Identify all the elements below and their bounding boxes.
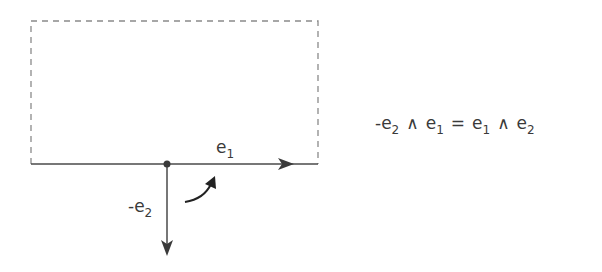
rhs-term-2-subscript: 2 [527, 123, 535, 137]
neg-e2-base: -e [128, 196, 145, 216]
rhs-term-1-subscript: 1 [483, 123, 491, 137]
wedge-product-equation: -e2∧e1=e1∧e2 [375, 113, 535, 137]
wedge-operator: ∧ [406, 113, 418, 133]
neg-e2-subscript: 2 [145, 206, 153, 220]
e1-label: e1 [216, 137, 234, 161]
rhs-term-1: e1 [472, 113, 490, 133]
lhs-term-1: -e2 [375, 113, 399, 133]
e1-subscript: 1 [226, 147, 234, 161]
lhs-term-2: e1 [426, 113, 444, 133]
lhs-term-2-subscript: 1 [436, 123, 444, 137]
rhs-term-2: e2 [517, 113, 535, 133]
e1-base: e [216, 137, 226, 157]
wedge-operator: ∧ [497, 113, 509, 133]
equals-sign: = [451, 113, 465, 133]
origin-dot [164, 161, 171, 168]
dashed-plane-rectangle [31, 21, 318, 164]
lhs-term-2-base: e [426, 113, 436, 133]
rhs-term-2-base: e [517, 113, 527, 133]
lhs-term-1-subscript: 2 [392, 123, 400, 137]
neg-e2-label: -e2 [128, 196, 152, 220]
rhs-term-1-base: e [472, 113, 482, 133]
rotation-arrow-curve [185, 184, 211, 202]
lhs-term-1-base: -e [375, 113, 392, 133]
